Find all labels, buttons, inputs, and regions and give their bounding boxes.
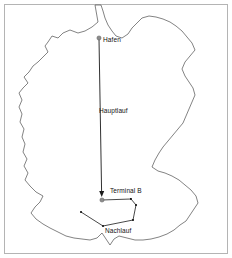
nachlauf-stop-node-1 [130,198,132,200]
nachlauf-label: Nachlauf [105,228,131,235]
terminal-b-node-marker [100,198,104,202]
hauptlauf-label: Hauptlauf [99,108,128,115]
transport-chain-figure: Hafen Hauptlauf Terminal B Nachlauf [0,0,232,258]
hafen-node-marker [97,36,101,40]
hafen-label: Hafen [103,37,121,44]
nachlauf-stop-node-3 [132,219,134,221]
terminal-b-label: Terminal B [110,188,142,195]
nachlauf-stop-node-2 [135,204,137,206]
nachlauf-stop-node-4 [102,225,104,227]
nachlauf-stop-node-5 [80,211,82,213]
